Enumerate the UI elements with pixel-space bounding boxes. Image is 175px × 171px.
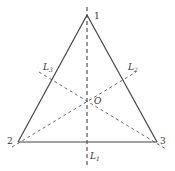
center-label-o: O — [94, 96, 102, 106]
axis-l2 — [12, 72, 136, 147]
axis-label-l1-sub: 1 — [96, 155, 100, 162]
axis-label-l3: L3 — [42, 62, 53, 73]
axis-label-l1-main: L — [89, 151, 96, 161]
axis-label-l3-sub: 3 — [49, 66, 53, 73]
axis-label-l1: L1 — [89, 151, 100, 162]
edge-1-2 — [18, 15, 87, 142]
vertex-label-1: 1 — [94, 11, 100, 21]
axis-l3 — [39, 72, 166, 149]
triangle-diagram: 1 2 3 O L1 L2 L3 — [0, 0, 175, 171]
vertex-label-3: 3 — [160, 136, 166, 146]
axis-label-l2: L2 — [127, 62, 138, 73]
axis-label-l2-sub: 2 — [133, 66, 138, 73]
axis-label-l3-main: L — [42, 62, 49, 72]
edge-1-3 — [87, 15, 157, 142]
axis-label-l2-main: L — [127, 62, 134, 72]
vertex-label-2: 2 — [7, 136, 13, 146]
diagram-canvas: 1 2 3 O L1 L2 L3 — [0, 0, 175, 171]
